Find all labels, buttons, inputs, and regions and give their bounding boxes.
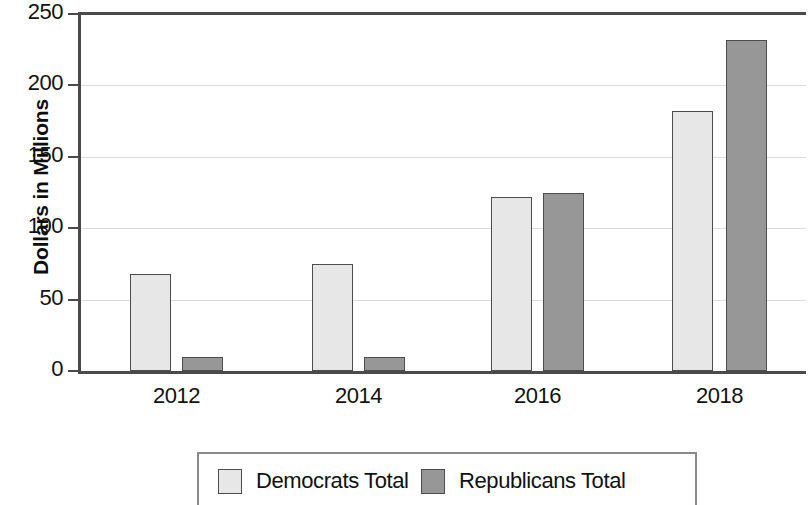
y-axis-tick	[68, 156, 79, 158]
bar-2012-republicans	[182, 357, 223, 371]
legend-label: Republicans Total	[459, 468, 625, 494]
gridline	[81, 85, 806, 86]
legend-item-rep[interactable]: Republicans Total	[421, 468, 625, 494]
legend-swatch-rep	[421, 469, 445, 494]
y-axis-title: Dollars in Millions	[29, 72, 53, 302]
plot-top-border	[78, 12, 806, 15]
bar-2012-democrats	[130, 274, 171, 371]
x-axis-line	[78, 371, 806, 374]
bar-2014-republicans	[364, 357, 405, 371]
y-axis-tick-label: 150	[1, 142, 63, 168]
x-axis-label-2012: 2012	[117, 383, 237, 409]
legend-label: Democrats Total	[256, 468, 409, 494]
y-axis-tick-label: 50	[1, 285, 63, 311]
y-axis-tick	[68, 13, 79, 15]
y-axis-line	[78, 14, 81, 372]
bar-2018-democrats	[672, 111, 713, 371]
bar-2016-democrats	[491, 197, 532, 371]
y-axis-tick	[68, 299, 79, 301]
bar-2016-republicans	[543, 193, 584, 372]
x-axis-label-2018: 2018	[660, 383, 780, 409]
bar-chart: Dollars in Millions 050100150200250 2012…	[0, 0, 808, 505]
chart-legend: Democrats TotalRepublicans Total	[197, 452, 697, 505]
y-axis-tick	[68, 227, 79, 229]
y-axis-tick	[68, 370, 79, 372]
y-axis-tick-label: 0	[1, 356, 63, 382]
bar-2014-democrats	[312, 264, 353, 371]
x-axis-label-2014: 2014	[299, 383, 419, 409]
y-axis-tick-label: 200	[1, 70, 63, 96]
legend-item-dem[interactable]: Democrats Total	[218, 468, 409, 494]
x-axis-label-2016: 2016	[478, 383, 598, 409]
bar-2018-republicans	[726, 40, 767, 371]
y-axis-tick-label: 100	[1, 213, 63, 239]
y-axis-tick-label: 250	[1, 0, 63, 25]
y-axis-tick	[68, 84, 79, 86]
legend-swatch-dem	[218, 469, 242, 494]
